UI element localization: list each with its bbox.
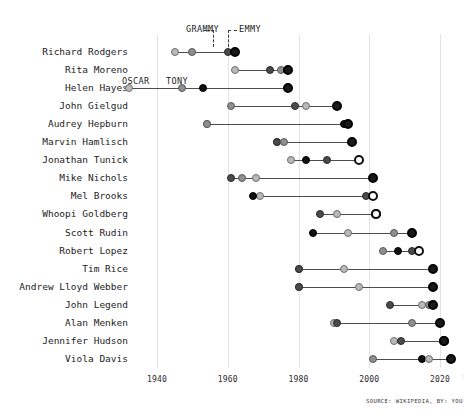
award-dot-emmy[interactable] <box>302 156 310 164</box>
row-label-andrew-lloyd-webber: Andrew Lloyd Webber <box>0 282 128 292</box>
row-label-jonathan-tunick: Jonathan Tunick <box>0 155 128 165</box>
award-dot-tony[interactable] <box>379 247 387 255</box>
award-dot-tony[interactable] <box>227 102 235 110</box>
row-label-john-gielgud: John Gielgud <box>0 101 128 111</box>
row-connector <box>253 196 373 197</box>
award-dot-tony[interactable] <box>178 84 186 92</box>
x-tick-2000: 2000 <box>349 375 389 384</box>
row-connector <box>334 323 440 324</box>
row-label-mike-nichols: Mike Nichols <box>0 173 128 183</box>
award-dot-oscar[interactable] <box>231 66 239 74</box>
source-note: SOURCE: WIKIPEDIA, BY: YOU <box>366 398 463 404</box>
row-label-marvin-hamlisch: Marvin Hamlisch <box>0 137 128 147</box>
grammy-leader-elbow <box>204 30 214 31</box>
annotation-emmy: EMMY <box>239 24 261 34</box>
row-label-robert-lopez: Robert Lopez <box>0 246 128 256</box>
award-dot-grammy[interactable] <box>266 66 274 74</box>
row-connector <box>207 124 349 125</box>
award-dot-grammy[interactable] <box>316 210 324 218</box>
award-dot-oscar[interactable] <box>355 283 363 291</box>
x-tick-1960: 1960 <box>208 375 248 384</box>
award-dot-tony[interactable] <box>368 191 378 201</box>
award-dot-tony[interactable] <box>188 48 196 56</box>
award-dot-oscar[interactable] <box>414 246 424 256</box>
gridline-1960 <box>228 34 229 368</box>
row-label-john-legend: John Legend <box>0 300 128 310</box>
emmy-leader-line <box>228 30 229 47</box>
award-dot-oscar[interactable] <box>256 192 264 200</box>
award-dot-tony[interactable] <box>238 174 246 182</box>
annotation-grammy: GRAMMY <box>186 24 219 34</box>
award-dot-tony[interactable] <box>354 155 364 165</box>
award-dot-tony[interactable] <box>408 319 416 327</box>
award-dot-grammy[interactable] <box>343 119 353 129</box>
row-label-helen-hayes: Helen Hayes <box>0 83 128 93</box>
award-dot-emmy[interactable] <box>368 173 378 183</box>
award-dot-tony[interactable] <box>369 355 377 363</box>
row-label-jennifer-hudson: Jennifer Hudson <box>0 336 128 346</box>
award-dot-oscar[interactable] <box>171 48 179 56</box>
row-connector <box>373 359 451 360</box>
award-dot-grammy[interactable] <box>323 156 331 164</box>
award-dot-grammy[interactable] <box>227 174 235 182</box>
award-dot-grammy[interactable] <box>407 228 417 238</box>
award-dot-tony[interactable] <box>371 209 381 219</box>
award-dot-grammy[interactable] <box>295 283 303 291</box>
award-dot-grammy[interactable] <box>295 265 303 273</box>
row-connector <box>129 88 288 89</box>
award-dot-emmy[interactable] <box>435 318 445 328</box>
row-connector <box>299 287 433 288</box>
award-dot-emmy[interactable] <box>428 282 438 292</box>
award-dot-emmy[interactable] <box>439 336 449 346</box>
award-dot-emmy[interactable] <box>428 264 438 274</box>
gridline-1980 <box>299 34 300 368</box>
award-dot-emmy[interactable] <box>249 192 257 200</box>
award-dot-oscar[interactable] <box>302 102 310 110</box>
row-label-scott-rudin: Scott Rudin <box>0 228 128 238</box>
award-dot-oscar[interactable] <box>125 84 133 92</box>
award-dot-grammy[interactable] <box>386 301 394 309</box>
award-dot-grammy[interactable] <box>283 83 293 93</box>
award-dot-oscar[interactable] <box>252 174 260 182</box>
award-dot-oscar[interactable] <box>333 210 341 218</box>
award-dot-emmy[interactable] <box>230 47 240 57</box>
award-dot-oscar[interactable] <box>344 229 352 237</box>
row-label-mel-brooks: Mel Brooks <box>0 191 128 201</box>
award-dot-grammy[interactable] <box>333 319 341 327</box>
award-dot-grammy[interactable] <box>291 102 299 110</box>
award-dot-grammy[interactable] <box>446 354 456 364</box>
egot-timeline-chart: Richard RodgersRita MorenoHelen HayesJoh… <box>0 0 467 417</box>
gridline-1940 <box>157 34 158 368</box>
award-dot-emmy[interactable] <box>394 247 402 255</box>
edge-artifact-bottom: | <box>461 396 465 403</box>
x-tick-1940: 1940 <box>137 375 177 384</box>
row-label-viola-davis: Viola Davis <box>0 354 128 364</box>
award-dot-oscar[interactable] <box>425 355 433 363</box>
edge-artifact-top: | <box>461 372 465 379</box>
award-dot-emmy[interactable] <box>309 229 317 237</box>
row-connector <box>299 269 433 270</box>
award-dot-grammy[interactable] <box>397 337 405 345</box>
row-connector <box>320 214 377 215</box>
row-label-rita-moreno: Rita Moreno <box>0 65 128 75</box>
award-dot-emmy[interactable] <box>347 137 357 147</box>
x-tick-2020: 2020 <box>420 375 460 384</box>
grammy-leader-line <box>213 30 214 47</box>
award-dot-emmy[interactable] <box>199 84 207 92</box>
award-dot-oscar[interactable] <box>287 156 295 164</box>
row-label-richard-rodgers: Richard Rodgers <box>0 47 128 57</box>
award-dot-tony[interactable] <box>203 120 211 128</box>
row-connector <box>277 142 351 143</box>
row-label-audrey-hepburn: Audrey Hepburn <box>0 119 128 129</box>
gridline-2000 <box>369 34 370 368</box>
award-dot-emmy[interactable] <box>332 101 342 111</box>
award-dot-tony[interactable] <box>280 138 288 146</box>
row-label-tim-rice: Tim Rice <box>0 264 128 274</box>
award-dot-emmy[interactable] <box>428 300 438 310</box>
award-dot-emmy[interactable] <box>283 65 293 75</box>
row-connector <box>231 106 337 107</box>
award-dot-oscar[interactable] <box>340 265 348 273</box>
award-dot-tony[interactable] <box>390 229 398 237</box>
emmy-leader-elbow <box>228 30 237 31</box>
x-tick-1980: 1980 <box>279 375 319 384</box>
